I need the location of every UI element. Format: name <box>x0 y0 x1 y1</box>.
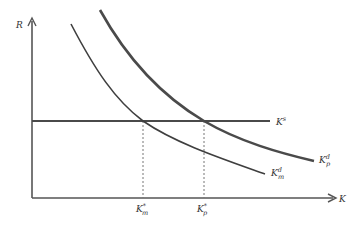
ks-label: Ks <box>275 115 287 127</box>
kp-demand-label: Kdp <box>318 153 331 168</box>
diagram-canvas: R K Ks Kdp Kdm K*m K*p <box>0 0 359 225</box>
km-equilibrium-label: K*m <box>135 202 148 217</box>
kp-equilibrium-label: K*p <box>196 202 208 217</box>
km-demand-label: Kdm <box>270 166 284 181</box>
x-axis-label: K <box>338 194 347 204</box>
km-demand-curve <box>71 24 265 174</box>
y-axis-label: R <box>15 20 23 30</box>
kp-demand-curve <box>100 10 314 161</box>
